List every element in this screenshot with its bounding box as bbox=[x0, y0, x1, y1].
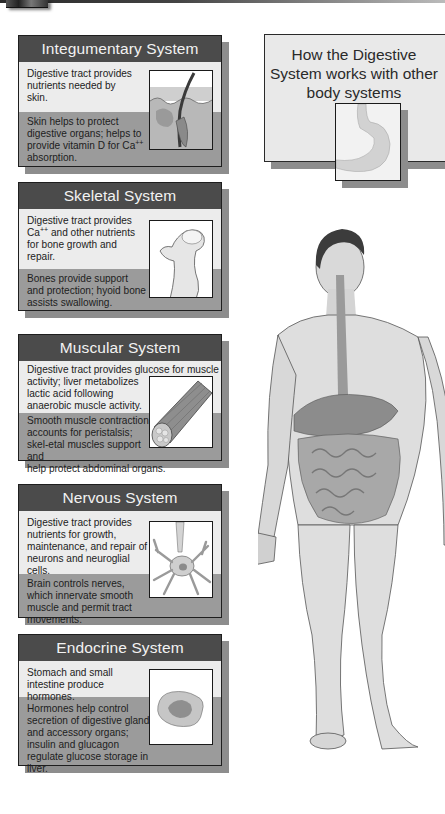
muscle-fiber-image bbox=[149, 376, 213, 448]
digestive-contribution-text: Digestive tract provides nutrients neede… bbox=[27, 68, 139, 104]
skin-hair-icon bbox=[150, 71, 213, 150]
femur-bone-icon bbox=[150, 221, 213, 298]
card-title: Skeletal System bbox=[19, 183, 221, 209]
human-body-figure bbox=[258, 225, 445, 765]
skeletal-system-card: Skeletal System Digestive tract provides… bbox=[18, 182, 222, 311]
islet-tissue-icon bbox=[150, 670, 213, 745]
digestive-contribution-text: Digestive tract provides Ca++ and other … bbox=[27, 215, 139, 263]
neuron-image bbox=[149, 521, 213, 598]
system-contribution-text: Hormones help control secretion of diges… bbox=[27, 703, 155, 775]
card-title: Integumentary System bbox=[19, 36, 221, 62]
endocrine-system-card: Endocrine System Stomach and small intes… bbox=[18, 634, 222, 766]
card-title: Nervous System bbox=[19, 485, 221, 511]
muscle-bundle-icon bbox=[150, 377, 213, 448]
card-title: Muscular System bbox=[19, 335, 221, 361]
digestive-contribution-text: activity; liver metabolizes lactic acid … bbox=[27, 376, 147, 412]
system-contribution-text: Bones provide support and protection; hy… bbox=[27, 273, 147, 309]
human-body-digestive-icon bbox=[258, 225, 445, 765]
nervous-system-card: Nervous System Digestive tract provides … bbox=[18, 484, 222, 618]
neuron-icon bbox=[150, 522, 213, 598]
stomach-icon bbox=[336, 104, 401, 181]
top-border bbox=[0, 0, 445, 3]
skin-hair-follicle-image bbox=[149, 70, 213, 150]
bone-image bbox=[149, 220, 213, 298]
digestive-contribution-text: Digestive tract provides nutrients for g… bbox=[27, 517, 149, 577]
stomach-image bbox=[335, 103, 401, 181]
muscular-system-card: Muscular System Digestive tract provides… bbox=[18, 334, 222, 461]
system-contribution-text: Brain controls nerves, which innervate s… bbox=[27, 578, 152, 626]
system-contribution-text: Skin helps to protect digestive organs; … bbox=[27, 116, 147, 164]
integumentary-system-card: Integumentary System Digestive tract pro… bbox=[18, 35, 222, 167]
digestive-contribution-line1: Digestive tract provides glucose for mus… bbox=[27, 364, 223, 376]
pancreas-islet-image bbox=[149, 669, 213, 745]
card-title: Endocrine System bbox=[19, 635, 221, 661]
page-title: How the Digestive System works with othe… bbox=[265, 45, 443, 102]
corner-thumbnail bbox=[6, 0, 48, 8]
system-contribution-last-line: help protect abdominal organs. bbox=[27, 463, 223, 475]
system-contribution-text: Smooth muscle contraction accounts for p… bbox=[27, 415, 152, 463]
